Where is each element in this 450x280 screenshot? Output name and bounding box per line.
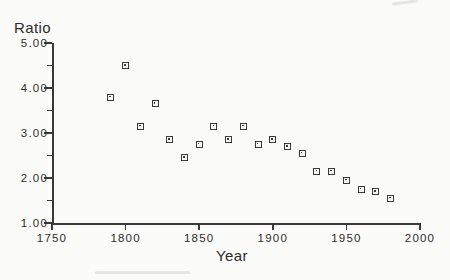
data-point-1920 xyxy=(299,150,306,157)
data-point-1790 xyxy=(107,94,114,101)
data-point-1820 xyxy=(152,100,159,107)
data-point-1830 xyxy=(166,136,173,143)
y-tick-label: 3.00 xyxy=(6,127,48,140)
data-point-1800 xyxy=(122,62,129,69)
data-point-1910 xyxy=(284,143,291,150)
x-major-tick xyxy=(419,223,421,230)
x-tick-label: 1800 xyxy=(101,232,151,245)
data-point-1900 xyxy=(269,136,276,143)
data-point-1970 xyxy=(372,188,379,195)
data-point-1930 xyxy=(313,168,320,175)
x-axis-title: Year xyxy=(202,247,262,264)
y-axis-title: Ratio xyxy=(14,19,51,36)
scan-artifact-bottom-left xyxy=(95,271,190,274)
y-tick-label: 2.00 xyxy=(6,172,48,185)
x-tick-label: 2000 xyxy=(395,232,445,245)
y-axis-line xyxy=(52,43,54,225)
x-major-tick xyxy=(125,223,127,230)
data-point-1960 xyxy=(358,186,365,193)
x-major-tick xyxy=(198,223,200,230)
data-point-1850 xyxy=(196,141,203,148)
y-minor-tick xyxy=(47,110,52,112)
x-axis-line xyxy=(52,223,421,225)
data-point-1810 xyxy=(137,123,144,130)
data-point-1980 xyxy=(387,195,394,202)
data-point-1880 xyxy=(240,123,247,130)
x-major-tick xyxy=(346,223,348,230)
y-minor-tick xyxy=(47,65,52,67)
x-tick-label: 1750 xyxy=(27,232,77,245)
scatter-chart-figure: Ratio Year 1.002.003.004.005.00175018001… xyxy=(0,0,450,280)
data-point-1870 xyxy=(225,136,232,143)
data-point-1860 xyxy=(210,123,217,130)
y-tick-label: 1.00 xyxy=(6,217,48,230)
data-point-1940 xyxy=(328,168,335,175)
x-major-tick xyxy=(272,223,274,230)
data-point-1950 xyxy=(343,177,350,184)
y-tick-label: 4.00 xyxy=(6,82,48,95)
x-major-tick xyxy=(51,223,53,230)
scan-artifact-top-right xyxy=(392,0,418,6)
x-tick-label: 1900 xyxy=(248,232,298,245)
data-point-1890 xyxy=(255,141,262,148)
x-tick-label: 1950 xyxy=(321,232,371,245)
y-minor-tick xyxy=(47,155,52,157)
y-minor-tick xyxy=(47,200,52,202)
y-tick-label: 5.00 xyxy=(6,37,48,50)
data-point-1840 xyxy=(181,154,188,161)
x-tick-label: 1850 xyxy=(174,232,224,245)
